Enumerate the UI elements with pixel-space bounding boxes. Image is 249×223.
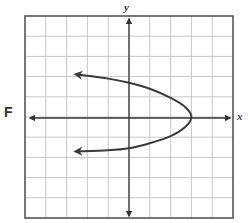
parabola-curve [77, 75, 191, 152]
coordinate-plane [0, 0, 249, 223]
